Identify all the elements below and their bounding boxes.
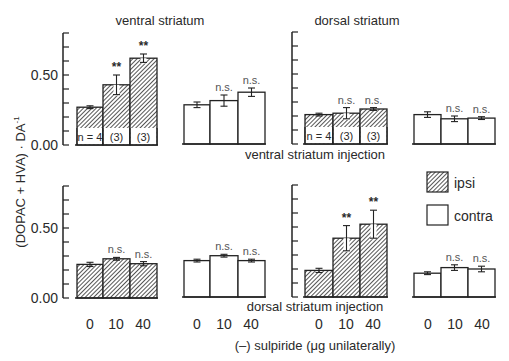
- ytick-label-top-050: 0.50: [31, 67, 58, 83]
- bar-ipsi-10: [103, 259, 130, 298]
- ytick-label-bottom-050: 0.50: [31, 220, 58, 236]
- xtick-label: 0: [86, 316, 94, 332]
- ytick-label-top-000: 0.00: [31, 137, 58, 153]
- y-axis-label-superscript: -1: [12, 116, 21, 124]
- xtick-label: 0: [193, 316, 201, 332]
- row-title-dorsal-injection: dorsal striatum injection: [247, 299, 384, 314]
- xtick-label: 10: [108, 316, 124, 332]
- not-significant-marker: n.s.: [365, 94, 383, 106]
- not-significant-marker: n.s.: [473, 252, 491, 264]
- panel-contra-1: n.s.n.s.: [182, 74, 266, 144]
- bar-contra-40: [468, 269, 495, 297]
- column-title-ventral: ventral striatum: [116, 13, 205, 28]
- bar-ipsi-0: [77, 264, 103, 298]
- bar-contra-10: [441, 119, 468, 144]
- significance-marker: **: [342, 211, 352, 225]
- n-label: n = 4: [307, 130, 332, 142]
- bar-ipsi-0: [305, 270, 333, 297]
- y-axis-label-main: (DOPAC + HVA) · DA: [13, 123, 28, 247]
- bar-contra-0: [184, 261, 210, 297]
- xtick-label: 0: [315, 316, 323, 332]
- n-label: (3): [340, 130, 353, 142]
- x-category-labels: 0 10 40 0 10 40 0 10 40 0 10 40: [86, 316, 490, 332]
- bar-contra-0: [414, 115, 441, 144]
- not-significant-marker: n.s.: [446, 251, 464, 263]
- legend-swatch-contra: [427, 205, 448, 225]
- not-significant-marker: n.s.: [473, 103, 491, 115]
- bar-contra-10: [441, 268, 468, 297]
- not-significant-marker: n.s.: [338, 94, 356, 106]
- panel-contra-7: n.s.n.s.: [412, 251, 496, 297]
- significance-marker: **: [369, 195, 379, 209]
- bar-contra-40: [238, 92, 265, 144]
- bar-contra-40: [238, 261, 265, 297]
- ytick-label-bottom-000: 0.00: [31, 290, 58, 306]
- n-label: (3): [137, 131, 150, 143]
- xtick-label: 40: [474, 316, 490, 332]
- panel-ipsi-6: ****: [292, 185, 388, 297]
- y-axis-label: (DOPAC + HVA) · DA-1: [12, 116, 28, 248]
- significance-marker: **: [139, 39, 149, 53]
- significance-marker: **: [112, 60, 122, 74]
- n-label: n = 4: [78, 131, 103, 143]
- panel-ipsi-0: n = 4(3)**(3)**: [63, 33, 158, 145]
- column-title-dorsal: dorsal striatum: [314, 13, 399, 28]
- bar-contra-0: [184, 105, 210, 144]
- panel-contra-5: n.s.n.s.: [182, 240, 266, 297]
- n-label: (3): [110, 131, 123, 143]
- not-significant-marker: n.s.: [135, 248, 153, 260]
- bar-contra-10: [210, 256, 238, 297]
- not-significant-marker: n.s.: [243, 245, 261, 257]
- figure: ventral striatum dorsal striatum ventral…: [0, 0, 509, 361]
- panel-contra-3: n.s.n.s.: [412, 102, 496, 144]
- xtick-label: 10: [338, 316, 354, 332]
- xtick-label: 10: [447, 316, 463, 332]
- legend-label-contra: contra: [454, 208, 493, 224]
- xtick-label: 40: [135, 316, 151, 332]
- not-significant-marker: n.s.: [215, 81, 233, 93]
- not-significant-marker: n.s.: [215, 240, 233, 252]
- legend-swatch-ipsi: [427, 172, 448, 192]
- bar-contra-10: [210, 101, 238, 144]
- xtick-label: 40: [243, 316, 259, 332]
- x-axis-label: (–) sulpiride (μg unilaterally): [235, 338, 396, 353]
- panel-ipsi-2: n = 4(3)n.s.(3)n.s.: [292, 32, 388, 144]
- n-label: (3): [367, 130, 380, 142]
- xtick-label: 10: [216, 316, 232, 332]
- plot-panels: n = 4(3)**(3)**n.s.n.s.n = 4(3)n.s.(3)n.…: [63, 32, 496, 298]
- panel-ipsi-4: n.s.n.s.: [63, 186, 158, 298]
- legend-label-ipsi: ipsi: [454, 175, 475, 191]
- legend: ipsi contra: [427, 172, 493, 225]
- row-title-ventral-injection: ventral striatum injection: [245, 147, 385, 162]
- xtick-label: 0: [424, 316, 432, 332]
- not-significant-marker: n.s.: [446, 102, 464, 114]
- xtick-label: 40: [365, 316, 381, 332]
- bar-ipsi-40: [130, 264, 157, 298]
- not-significant-marker: n.s.: [243, 74, 261, 86]
- bar-contra-40: [468, 118, 495, 144]
- bar-contra-0: [414, 273, 441, 297]
- not-significant-marker: n.s.: [108, 243, 126, 255]
